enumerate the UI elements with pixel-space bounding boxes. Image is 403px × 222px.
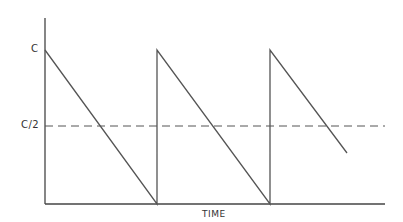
- sawtooth-chart: [0, 0, 403, 222]
- x-axis-label: TIME: [202, 209, 226, 219]
- y-tick-c: C: [31, 43, 38, 54]
- y-tick-c-half: C/2: [21, 119, 39, 130]
- sawtooth-series: [45, 50, 347, 204]
